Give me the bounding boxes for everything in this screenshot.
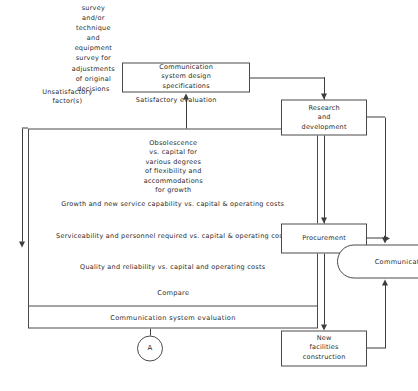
main-box-title-cell: Communication system evaluation	[28, 306, 318, 328]
compare-label: Compare	[157, 289, 189, 298]
communication-objective-oval: Communication objective	[337, 244, 418, 278]
diagram-stage: A Communication system evaluation Compar…	[0, 0, 418, 391]
converge-line-research-vertical	[367, 116, 385, 117]
design-specifications-label: Communication system design specificatio…	[159, 63, 213, 91]
compare-item-label: Growth and new service capability vs. ca…	[62, 200, 285, 209]
communication-objective-label: Communication objective	[374, 257, 418, 265]
compare-label-cell: Compare	[28, 281, 318, 305]
compare-item: Obsolescence vs. capital for various deg…	[28, 146, 318, 186]
feedback-line-from-main-box	[22, 127, 28, 128]
compare-item-label: Quality and reliability vs. capital and …	[80, 262, 265, 271]
compare-item: Quality and reliability vs. capital and …	[28, 255, 318, 279]
new-facilities-construction-label: New facilities construction	[303, 334, 346, 362]
converge-line-new-facilities-vertical	[367, 347, 385, 348]
converge-line-research-horizontal	[385, 117, 386, 237]
offpage-connector-a-label: A	[148, 344, 153, 352]
new-facilities-construction-box: New facilities construction	[281, 330, 367, 366]
branch-line-research	[324, 77, 325, 93]
feedback-arrowhead	[19, 241, 25, 247]
compare-item-label: Obsolescence vs. capital for various deg…	[143, 138, 202, 195]
branch-arrowhead-new-facilities	[321, 324, 327, 330]
fanout-spine	[250, 77, 324, 78]
design-specifications-box: Communication system design specificatio…	[122, 62, 250, 92]
feedback-label: Feedback to facilities survey and/or tec…	[70, 0, 116, 93]
branch-arrowhead-research	[321, 93, 327, 99]
feedback-label-cell: Feedback to facilities survey and/or tec…	[18, 15, 168, 61]
compare-item: Serviceability and personnel required vs…	[28, 224, 318, 248]
diagram-canvas: A Communication system evaluation Compar…	[0, 0, 418, 391]
feedback-line-horizontal	[22, 128, 23, 241]
connector-a-line	[150, 328, 151, 335]
converge-arrowhead-new-facilities	[382, 279, 388, 285]
branch-arrowhead-procurement	[321, 217, 327, 223]
research-and-development-label: Research and development	[301, 103, 346, 131]
compare-item-label: Serviceability and personnel required vs…	[56, 231, 289, 240]
converge-line-new-facilities-horizontal	[385, 284, 386, 348]
compare-item: Growth and new service capability vs. ca…	[28, 193, 318, 217]
satisfactory-evaluation-label-cell: Satisfactory evaluation	[100, 93, 252, 106]
offpage-connector-a-circle: A	[137, 335, 163, 361]
main-box-title: Communication system evaluation	[110, 313, 236, 321]
satisfactory-evaluation-label: Satisfactory evaluation	[136, 95, 217, 103]
research-and-development-box: Research and development	[281, 99, 367, 135]
procurement-label: Procurement	[302, 234, 346, 242]
converge-arrowhead-research	[382, 237, 388, 243]
